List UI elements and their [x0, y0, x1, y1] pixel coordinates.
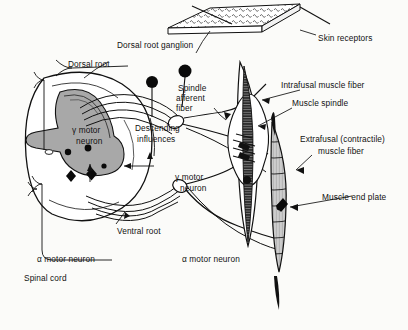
label-gamma-motor-right-2: neuron — [180, 183, 207, 193]
muscle-spindle — [228, 62, 269, 246]
label-ventral-root: Ventral root — [117, 226, 161, 236]
skin-patch — [168, 4, 330, 34]
label-intrafusal-fiber: Intrafusal muscle fiber — [281, 80, 365, 90]
label-muscle-end-plate: Muscle end plate — [322, 192, 387, 202]
label-extrafusal-1: Extrafusal (contractile) — [300, 134, 385, 144]
label-spinal-cord: Spinal cord — [24, 273, 67, 283]
label-spindle-afferent-2: afferent — [176, 93, 205, 103]
anatomy-figure: Dorsal root ganglion Dorsal root Skin re… — [0, 0, 408, 330]
label-spindle-afferent-1: Spindle — [178, 83, 207, 93]
label-alpha-motor-left: α motor neuron — [37, 254, 95, 264]
label-descending-1: Descending — [135, 123, 180, 133]
diagram-canvas: Dorsal root ganglion Dorsal root Skin re… — [0, 0, 408, 330]
label-gamma-motor-right-1: γ motor — [175, 172, 203, 182]
label-muscle-spindle: Muscle spindle — [292, 98, 349, 108]
label-gamma-motor-left-1: γ motor — [72, 125, 100, 135]
label-extrafusal-2: muscle fiber — [318, 146, 364, 156]
label-descending-2: influences — [137, 134, 175, 144]
label-dorsal-root: Dorsal root — [68, 59, 110, 69]
label-skin-receptors: Skin receptors — [318, 33, 372, 43]
label-gamma-motor-left-2: neuron — [76, 136, 103, 146]
label-spindle-afferent-3: fiber — [176, 103, 193, 113]
label-alpha-motor-right: α motor neuron — [182, 254, 240, 264]
label-dorsal-root-ganglion: Dorsal root ganglion — [117, 40, 194, 50]
